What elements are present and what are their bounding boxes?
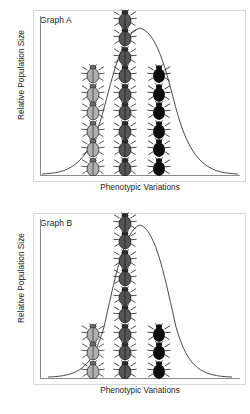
graph-b-bell-curve-line — [40, 219, 240, 379]
graph-a-column-light — [80, 16, 106, 176]
beetle-icon — [147, 101, 171, 121]
graph-b-x-axis-title: Phenotypic Variations — [40, 385, 240, 395]
beetle-icon — [113, 304, 137, 324]
graph-b-panel: Graph B Relative Population Size — [0, 213, 250, 410]
beetle-icon — [81, 157, 105, 177]
beetle-icon — [113, 64, 137, 84]
beetle-icon — [81, 341, 105, 361]
beetle-icon — [113, 249, 137, 269]
beetle-icon — [147, 64, 171, 84]
beetle-icon — [147, 323, 171, 343]
beetle-icon — [147, 138, 171, 158]
graph-b-column-light — [80, 219, 106, 379]
beetle-icon — [81, 138, 105, 158]
beetle-icon — [113, 286, 137, 306]
beetle-icon — [113, 230, 137, 250]
beetle-icon — [147, 120, 171, 140]
graph-b-column-dark — [146, 219, 172, 379]
beetle-icon — [113, 157, 137, 177]
beetle-icon — [113, 360, 137, 380]
beetle-icon — [113, 83, 137, 103]
beetle-icon — [113, 267, 137, 287]
graph-b-column-medium — [112, 219, 138, 379]
graph-a-panel: Graph A Relative Population Size — [0, 10, 250, 206]
beetle-selection-figure: Graph A Relative Population Size — [0, 0, 250, 414]
graph-b-y-axis-title: Relative Population Size — [16, 203, 26, 353]
beetle-icon — [113, 27, 137, 47]
beetle-icon — [113, 101, 137, 121]
beetle-icon — [147, 157, 171, 177]
beetle-icon — [147, 83, 171, 103]
graph-a-column-dark — [146, 16, 172, 176]
beetle-icon — [113, 138, 137, 158]
beetle-icon — [147, 360, 171, 380]
beetle-icon — [113, 323, 137, 343]
beetle-icon — [113, 9, 137, 29]
beetle-icon — [113, 341, 137, 361]
beetle-icon — [113, 46, 137, 66]
graph-a-x-axis-title: Phenotypic Variations — [40, 182, 240, 192]
beetle-icon — [147, 341, 171, 361]
beetle-icon — [81, 323, 105, 343]
beetle-icon — [81, 101, 105, 121]
beetle-icon — [81, 83, 105, 103]
graph-a-bell-curve-line — [40, 16, 240, 176]
beetle-icon — [81, 64, 105, 84]
beetle-icon — [81, 120, 105, 140]
graph-a-column-medium — [112, 16, 138, 176]
graph-a-y-axis-title: Relative Population Size — [16, 0, 26, 150]
beetle-icon — [113, 120, 137, 140]
beetle-icon — [81, 360, 105, 380]
beetle-icon — [113, 212, 137, 232]
